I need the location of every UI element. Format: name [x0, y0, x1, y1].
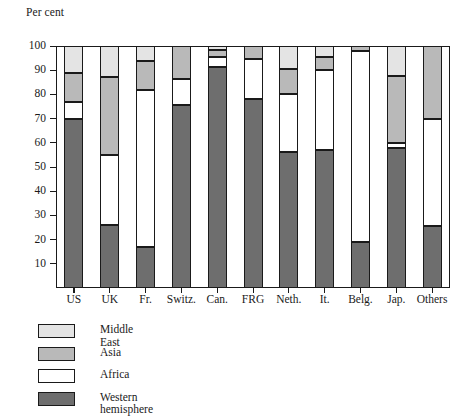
bar-segment — [315, 70, 334, 150]
bar-segment — [387, 143, 406, 148]
legend-swatch-africa — [38, 369, 75, 383]
bar-segment — [64, 119, 83, 288]
bar-segment — [279, 69, 298, 94]
bar-segment — [172, 46, 191, 79]
bars-layer — [56, 46, 450, 288]
y-axis-label: 100 — [20, 40, 46, 52]
y-axis-label: 90 — [20, 64, 46, 76]
bar-column — [208, 46, 227, 288]
bar-segment — [279, 152, 298, 288]
bar-column — [64, 46, 83, 288]
bar-column — [244, 46, 263, 288]
y-axis-label: 30 — [20, 209, 46, 221]
y-axis-label: 60 — [20, 137, 46, 149]
bar-segment — [387, 148, 406, 288]
bar-segment — [136, 247, 155, 288]
y-axis-label: 40 — [20, 185, 46, 197]
bar-segment — [244, 46, 263, 59]
bar-segment — [172, 79, 191, 106]
bar-column — [136, 46, 155, 288]
legend-swatch-western-hemisphere — [38, 392, 75, 406]
bar-column — [172, 46, 191, 288]
legend-swatch-asia — [38, 347, 75, 361]
bar-segment — [100, 77, 119, 154]
bar-segment — [387, 46, 406, 76]
bar-segment — [244, 99, 263, 288]
bar-segment — [279, 94, 298, 152]
bar-segment — [136, 61, 155, 90]
bar-segment — [208, 50, 227, 57]
bar-segment — [208, 57, 227, 67]
y-axis-label: 10 — [20, 258, 46, 270]
bar-segment — [64, 102, 83, 119]
bar-segment — [279, 46, 298, 69]
y-axis-label: 50 — [20, 161, 46, 173]
bar-column — [387, 46, 406, 288]
bar-column — [351, 46, 370, 288]
bar-column — [279, 46, 298, 288]
bar-segment — [315, 46, 334, 57]
y-axis-label: 20 — [20, 234, 46, 246]
legend-swatch-middle-east — [38, 324, 75, 338]
bar-segment — [172, 105, 191, 288]
legend-label: Western hemisphere — [100, 391, 153, 416]
bar-segment — [387, 76, 406, 143]
x-axis-label-others: Others — [402, 293, 462, 306]
bar-segment — [208, 67, 227, 288]
y-axis-label: 80 — [20, 88, 46, 100]
bar-segment — [315, 150, 334, 288]
legend-label: Africa — [100, 368, 129, 381]
bar-column — [315, 46, 334, 288]
bar-segment — [315, 57, 334, 70]
bar-segment — [423, 46, 442, 119]
legend-label: Asia — [100, 346, 121, 359]
bar-segment — [64, 46, 83, 73]
bar-segment — [208, 46, 227, 50]
bar-segment — [351, 51, 370, 242]
bar-segment — [136, 90, 155, 247]
bar-column — [100, 46, 119, 288]
bar-segment — [100, 225, 119, 288]
bar-segment — [351, 242, 370, 288]
bar-segment — [100, 46, 119, 77]
bar-segment — [423, 119, 442, 227]
bar-segment — [351, 46, 370, 51]
bar-column — [423, 46, 442, 288]
y-axis-title: Per cent — [26, 6, 64, 19]
legend-label: Middle East — [100, 323, 133, 348]
stacked-bar-chart: Per cent 102030405060708090100 USUKFr.Sw… — [0, 0, 462, 416]
bar-segment — [423, 226, 442, 288]
bar-segment — [136, 46, 155, 61]
y-axis-label: 70 — [20, 113, 46, 125]
bar-segment — [100, 155, 119, 225]
bar-segment — [244, 59, 263, 99]
bar-segment — [64, 73, 83, 102]
